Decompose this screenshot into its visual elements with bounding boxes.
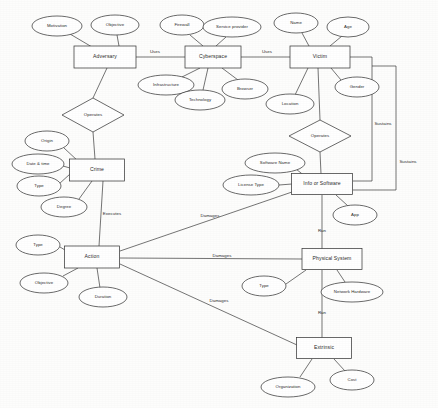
- attribute-ellipse-objective-adv[interactable]: [91, 15, 139, 35]
- attribute-ellipse-gender[interactable]: [335, 77, 379, 97]
- attribute-ellipse-firewall[interactable]: [160, 15, 204, 35]
- relationship-diamond-operates-info[interactable]: [289, 120, 351, 152]
- attribute-ellipse-type-action[interactable]: [16, 235, 60, 255]
- edge-licensetype-info: [279, 184, 292, 185]
- edge-duration-action: [97, 268, 100, 288]
- attribute-ellipse-cost[interactable]: [330, 370, 374, 390]
- edge-cost-extrinsic: [334, 359, 345, 371]
- entity-box-crime[interactable]: [70, 159, 125, 181]
- attribute-ellipse-age[interactable]: [327, 17, 369, 37]
- edge-name-victim: [302, 33, 309, 46]
- edge-age-victim: [330, 36, 342, 46]
- edge-operates-crime: [93, 132, 95, 159]
- edge-objective-adversary: [117, 35, 119, 46]
- edge-datetime-crime: [63, 166, 70, 168]
- edge-action-damages-info: [120, 192, 292, 251]
- attribute-ellipse-software-name[interactable]: [245, 153, 305, 173]
- edge-sustains-victim-info: [350, 57, 372, 181]
- edge-infrastructure-cyberspace: [180, 68, 200, 78]
- attribute-ellipse-technology[interactable]: [175, 90, 225, 110]
- entity-box-cyberspace[interactable]: [185, 46, 241, 68]
- edge-technology-cyberspace: [203, 68, 208, 90]
- edge-browser-cyberspace: [222, 68, 238, 80]
- entity-box-adversary[interactable]: [74, 46, 136, 68]
- attribute-ellipse-type-crime[interactable]: [17, 176, 61, 196]
- attribute-ellipse-organization[interactable]: [261, 377, 315, 397]
- er-diagram-graphics: [0, 0, 438, 408]
- relationship-diamond-operates-crime[interactable]: [62, 98, 124, 132]
- edge-motivation-adversary: [70, 34, 92, 47]
- edge-crime-action: [99, 181, 103, 246]
- attribute-ellipse-name[interactable]: [274, 13, 318, 33]
- entity-box-physical[interactable]: [302, 249, 362, 270]
- edge-organization-extrinsic: [300, 359, 312, 377]
- entity-box-extrinsic[interactable]: [297, 338, 352, 359]
- edge-location-victim: [295, 68, 308, 95]
- edge-networkhardware-physical: [337, 270, 345, 282]
- attribute-ellipse-service-provider[interactable]: [203, 17, 261, 37]
- attribute-ellipse-app[interactable]: [333, 205, 377, 225]
- edge-degree-crime: [79, 181, 92, 199]
- edge-firewall-cyberspace: [190, 35, 203, 46]
- attribute-ellipse-degree[interactable]: [41, 197, 87, 217]
- attribute-ellipse-type-physical[interactable]: [242, 276, 286, 296]
- attribute-ellipse-motivation[interactable]: [32, 16, 82, 36]
- edge-gender-victim: [331, 68, 341, 80]
- entity-box-info[interactable]: [292, 174, 353, 195]
- edge-app-info: [336, 195, 348, 206]
- edge-objective-action: [63, 268, 78, 276]
- nodes-layer: [12, 13, 383, 397]
- entity-box-victim[interactable]: [290, 46, 350, 68]
- edge-serviceprovider-cyberspace: [216, 37, 226, 46]
- attribute-ellipse-network-hardware[interactable]: [321, 282, 383, 302]
- edge-type-crime: [59, 174, 70, 184]
- edge-action-damages-physical: [120, 258, 302, 259]
- er-diagram-canvas: AdversaryCyberspaceVictimCrimeActionInfo…: [0, 0, 438, 408]
- attribute-ellipse-date-time[interactable]: [12, 154, 64, 174]
- edge-type-physical: [286, 270, 306, 284]
- edge-victim-operates-info: [318, 68, 320, 120]
- attribute-ellipse-origin[interactable]: [25, 131, 69, 151]
- attribute-ellipse-objective-action[interactable]: [20, 273, 68, 293]
- attribute-ellipse-browser[interactable]: [222, 79, 268, 99]
- edge-operates-info: [320, 152, 321, 174]
- attribute-ellipse-location[interactable]: [266, 94, 314, 114]
- attribute-ellipse-duration[interactable]: [79, 287, 127, 307]
- attribute-ellipse-license-type[interactable]: [223, 175, 279, 195]
- entity-box-action[interactable]: [65, 246, 120, 268]
- edge-adversary-operates: [93, 68, 107, 98]
